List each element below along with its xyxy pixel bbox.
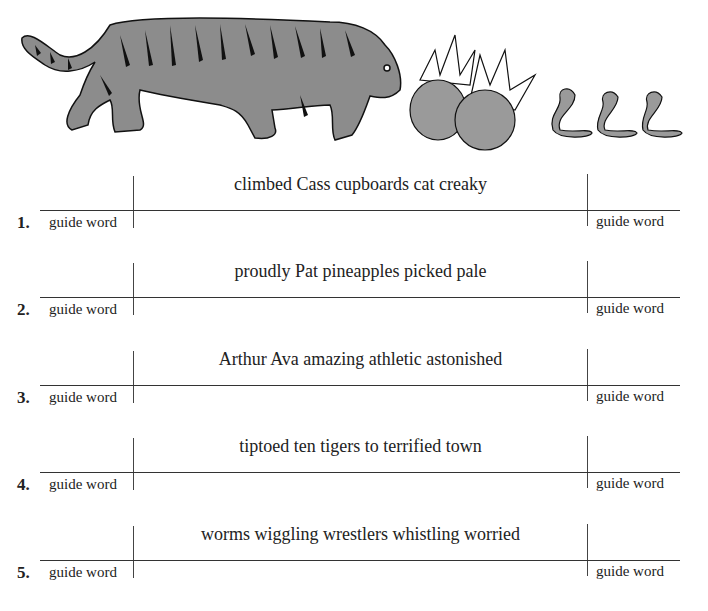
exercise-row: 3. Arthur Ava amazing athletic astonishe… bbox=[0, 341, 708, 429]
exercise-number: 5. bbox=[17, 563, 30, 583]
answer-line[interactable] bbox=[40, 385, 680, 386]
right-divider bbox=[587, 349, 588, 401]
right-guide-word-label: guide word bbox=[596, 563, 664, 580]
exercise-number: 3. bbox=[17, 388, 30, 408]
word-list: worms wiggling wrestlers whistling worri… bbox=[134, 524, 587, 545]
exercise-number: 2. bbox=[17, 300, 30, 320]
left-guide-word-label: guide word bbox=[49, 564, 117, 581]
worm-icon bbox=[597, 92, 637, 137]
word-list: tiptoed ten tigers to terrified town bbox=[134, 436, 587, 457]
exercise-row: 1. climbed Cass cupboards cat creaky gui… bbox=[0, 166, 708, 254]
right-guide-word-label: guide word bbox=[596, 300, 664, 317]
word-list: Arthur Ava amazing athletic astonished bbox=[134, 349, 587, 370]
exercise-row: 4. tiptoed ten tigers to terrified town … bbox=[0, 428, 708, 516]
right-divider bbox=[587, 261, 588, 313]
tiger-icon bbox=[22, 18, 401, 140]
answer-line[interactable] bbox=[40, 472, 680, 473]
word-list: proudly Pat pineapples picked pale bbox=[134, 261, 587, 282]
left-guide-word-label: guide word bbox=[49, 214, 117, 231]
left-guide-word-label: guide word bbox=[49, 476, 117, 493]
exercise-row: 5. worms wiggling wrestlers whistling wo… bbox=[0, 516, 708, 604]
word-list: climbed Cass cupboards cat creaky bbox=[134, 174, 587, 195]
right-guide-word-label: guide word bbox=[596, 475, 664, 492]
worm-icon bbox=[642, 92, 682, 137]
right-guide-word-label: guide word bbox=[596, 388, 664, 405]
answer-line[interactable] bbox=[40, 297, 680, 298]
exercise-row: 2. proudly Pat pineapples picked pale gu… bbox=[0, 253, 708, 341]
exercise-number: 4. bbox=[17, 475, 30, 495]
header-illustration bbox=[0, 0, 708, 155]
worm-icon bbox=[552, 89, 592, 137]
right-divider bbox=[587, 436, 588, 488]
right-divider bbox=[587, 524, 588, 576]
right-guide-word-label: guide word bbox=[596, 213, 664, 230]
exercise-number: 1. bbox=[17, 213, 30, 233]
left-guide-word-label: guide word bbox=[49, 389, 117, 406]
right-divider bbox=[587, 174, 588, 226]
answer-line[interactable] bbox=[40, 560, 680, 561]
left-guide-word-label: guide word bbox=[49, 301, 117, 318]
answer-line[interactable] bbox=[40, 210, 680, 211]
